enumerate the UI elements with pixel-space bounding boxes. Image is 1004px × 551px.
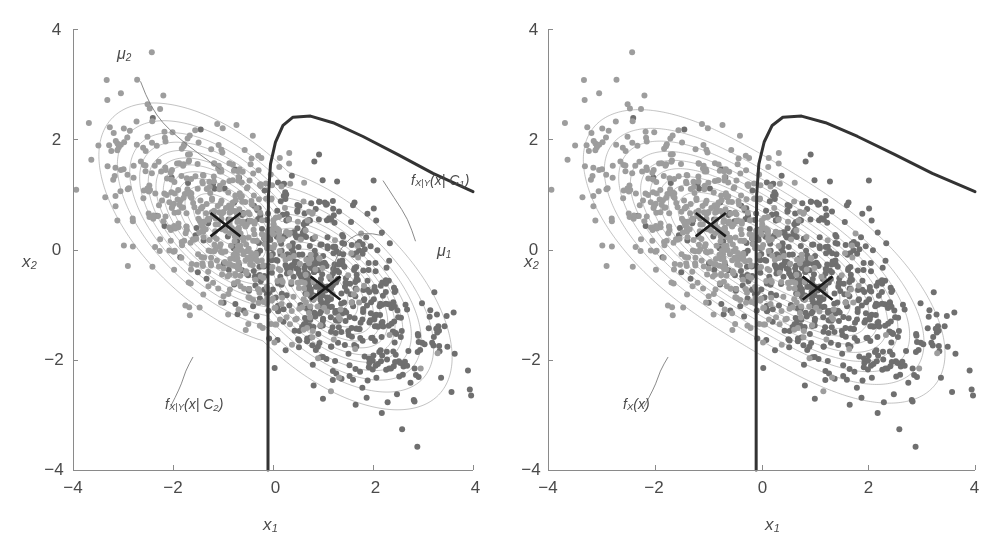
- y-tick-left-2: 2: [45, 130, 68, 150]
- plot-canvas-left: [0, 0, 502, 551]
- y-tick-right--4: −4: [517, 460, 545, 480]
- plot-canvas-right: [502, 0, 1004, 551]
- annotation-mu2: μ2: [117, 45, 131, 63]
- x-tick-left-2: 2: [364, 478, 387, 498]
- x-tick-left-0: 0: [264, 478, 287, 498]
- x-axis-label-right: x1: [765, 515, 780, 535]
- x-tick-right-0: 0: [751, 478, 774, 498]
- annotation-mu1: μ1: [437, 242, 451, 260]
- x-tick-right--4: −4: [534, 478, 562, 498]
- x-tick-right--2: −2: [640, 478, 668, 498]
- y-tick-left-0: 0: [45, 240, 68, 260]
- plot-panel-right: x2 x1 −4 −2 0 2 4 −4 −2 0 2 4 fX(x): [502, 0, 1004, 551]
- y-tick-right-4: 4: [522, 20, 545, 40]
- x-tick-left--4: −4: [59, 478, 87, 498]
- y-tick-left--2: −2: [40, 350, 68, 370]
- x-tick-right-2: 2: [857, 478, 880, 498]
- y-tick-right-2: 2: [522, 130, 545, 150]
- y-tick-right-0: 0: [522, 240, 545, 260]
- figure-root: x2 x1 −4 −2 0 2 4 −4 −2 0 2 4 μ2 μ1 fX|Y…: [0, 0, 1004, 551]
- x-tick-left--2: −2: [159, 478, 187, 498]
- y-axis-label-left: x2: [22, 252, 37, 272]
- annotation-f-x-given-c1: fX|Y(x| C1): [411, 172, 469, 189]
- annotation-f-x: fX(x): [623, 396, 650, 412]
- y-tick-left--4: −4: [40, 460, 68, 480]
- y-tick-left-4: 4: [45, 20, 68, 40]
- plot-panel-left: x2 x1 −4 −2 0 2 4 −4 −2 0 2 4 μ2 μ1 fX|Y…: [0, 0, 502, 551]
- x-tick-left-4: 4: [464, 478, 487, 498]
- x-axis-label-left: x1: [263, 515, 278, 535]
- y-tick-right--2: −2: [517, 350, 545, 370]
- annotation-f-x-given-c2: fX|Y(x| C2): [165, 396, 223, 413]
- x-tick-right-4: 4: [963, 478, 986, 498]
